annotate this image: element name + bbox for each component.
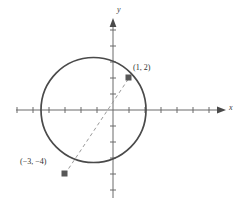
y-axis <box>110 18 117 198</box>
y-axis-label: y <box>117 6 121 14</box>
point-marker-neg3-neg4 <box>62 171 68 177</box>
point-label-neg3-neg4: (−3, −4) <box>20 158 46 166</box>
coordinate-plane-svg <box>0 0 241 207</box>
diameter-dashed-line <box>65 78 129 174</box>
point-label-1-2: (1, 2) <box>133 64 150 72</box>
x-axis <box>16 107 226 114</box>
x-axis-label: x <box>229 104 233 112</box>
figure-canvas: y x (1, 2) (−3, −4) <box>0 0 241 207</box>
point-marker-1-2 <box>126 75 132 81</box>
